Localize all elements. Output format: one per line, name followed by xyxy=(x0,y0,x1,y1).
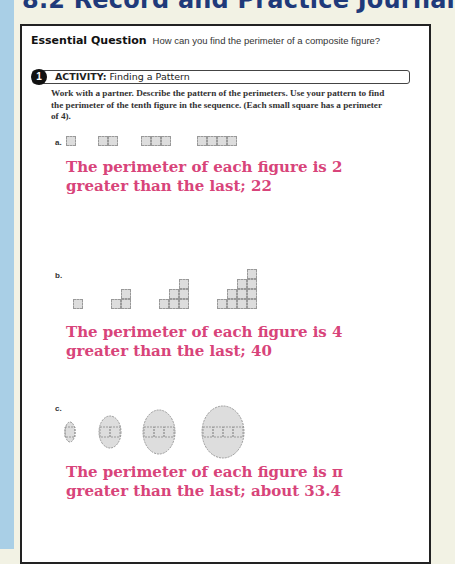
activity-title: ACTIVITY: Finding a Pattern xyxy=(55,71,190,83)
part-c-figures xyxy=(62,404,302,464)
part-a-answer: The perimeter of each figure is 2 greate… xyxy=(66,158,366,196)
part-c-answer-line2: greater than the last; about 33.4 xyxy=(66,482,366,501)
part-c-answer-line1: The perimeter of each figure is π xyxy=(66,463,366,482)
essential-question-label: Essential Question xyxy=(31,34,147,47)
part-b-answer-line2: greater than the last; 40 xyxy=(66,342,366,361)
activity-header: 1 ACTIVITY: Finding a Pattern xyxy=(32,70,410,84)
activity-name: Finding a Pattern xyxy=(110,71,190,82)
part-b-answer: The perimeter of each figure is 4 greate… xyxy=(66,323,366,361)
essential-question-text: How can you find the perimeter of a comp… xyxy=(153,35,381,46)
activity-number-badge: 1 xyxy=(31,69,47,85)
part-c-answer: The perimeter of each figure is π greate… xyxy=(66,463,366,501)
part-b-answer-line1: The perimeter of each figure is 4 xyxy=(66,323,366,342)
activity-label: ACTIVITY: xyxy=(55,71,107,82)
activity-instructions: Work with a partner. Describe the patter… xyxy=(51,88,391,123)
part-a-label: a. xyxy=(55,138,62,147)
journal-box: Essential QuestionHow can you find the p… xyxy=(20,24,431,564)
part-a-answer-line1: The perimeter of each figure is 2 xyxy=(66,158,366,177)
essential-question: Essential QuestionHow can you find the p… xyxy=(31,34,411,47)
part-c-label: c. xyxy=(55,404,62,413)
part-b-label: b. xyxy=(55,271,62,280)
page-title: 8.2 Record and Practice Journal xyxy=(22,0,455,14)
part-a-answer-line2: greater than the last; 22 xyxy=(66,177,366,196)
left-margin-strip xyxy=(0,0,14,549)
